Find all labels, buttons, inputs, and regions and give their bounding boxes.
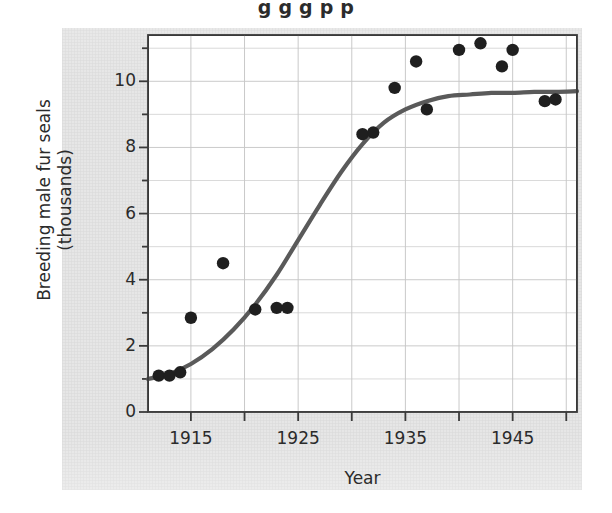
y-axis-title-line2: (thousands) — [55, 25, 76, 375]
x-tick-label: 1945 — [478, 428, 548, 448]
data-points — [153, 37, 562, 382]
y-tick-label: 6 — [96, 203, 136, 223]
x-tick-label: 1925 — [263, 428, 333, 448]
y-tick-label: 2 — [96, 335, 136, 355]
figure-container: g g g p p 0246810 1915192519351945 Breed… — [0, 0, 612, 513]
y-axis-title-line1: Breeding male fur seals — [34, 25, 55, 375]
y-axis-title: Breeding male fur seals (thousands) — [34, 25, 76, 375]
x-axis-title: Year — [148, 468, 577, 488]
x-tick-label: 1915 — [156, 428, 226, 448]
axis-ticks — [139, 48, 566, 421]
x-tick-label: 1935 — [370, 428, 440, 448]
y-tick-label: 8 — [96, 136, 136, 156]
y-tick-label: 4 — [96, 269, 136, 289]
y-tick-label: 10 — [96, 70, 136, 90]
y-tick-label: 0 — [96, 401, 136, 421]
